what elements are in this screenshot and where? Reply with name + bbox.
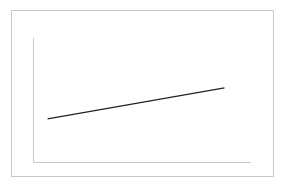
line-chart: [0, 0, 288, 186]
data-line: [48, 88, 225, 119]
